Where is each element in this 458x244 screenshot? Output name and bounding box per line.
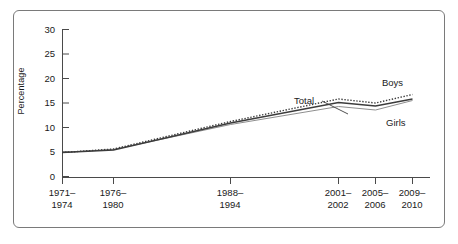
x-tick-line-top: 1971–: [39, 187, 85, 199]
y-tick-label-15: 15: [33, 97, 55, 108]
x-tick-label-1988-1994: 1988– 1994: [207, 187, 253, 210]
girls-series-label: Girls: [386, 117, 406, 128]
x-tick-line-bottom: 2010: [389, 199, 435, 211]
y-tick-label-20: 20: [33, 73, 55, 84]
x-tick-label-1971-1974: 1971– 1974: [39, 187, 85, 210]
x-tick-label-2009-2010: 2009– 2010: [389, 187, 435, 210]
x-tick-line-bottom: 1994: [207, 199, 253, 211]
total-series-label: Total: [294, 95, 314, 106]
y-tick-label-0: 0: [33, 171, 55, 182]
y-tick-label-5: 5: [33, 146, 55, 157]
x-tick-line-bottom: 1980: [90, 199, 136, 211]
x-tick-line-top: 1976–: [90, 187, 136, 199]
chart-figure: 30 25 20 15 10 5 0 Percentage 1971– 1974…: [0, 0, 458, 244]
x-tick-line-top: 1988–: [207, 187, 253, 199]
y-tick-label-10: 10: [33, 122, 55, 133]
y-axis-title: Percentage: [16, 56, 26, 126]
y-axis-ticks: [62, 30, 69, 177]
boys-series-label: Boys: [382, 77, 403, 88]
chart-plot-area: 30 25 20 15 10 5 0 Percentage 1971– 1974…: [0, 0, 458, 244]
x-tick-line-bottom: 1974: [39, 199, 85, 211]
series-line-total: [62, 99, 413, 153]
y-tick-label-25: 25: [33, 48, 55, 59]
series-line-girls: [62, 101, 413, 153]
x-tick-line-top: 2009–: [389, 187, 435, 199]
x-tick-label-1976-1980: 1976– 1980: [90, 187, 136, 210]
y-tick-label-30: 30: [33, 24, 55, 35]
x-axis-ticks: [63, 177, 413, 184]
